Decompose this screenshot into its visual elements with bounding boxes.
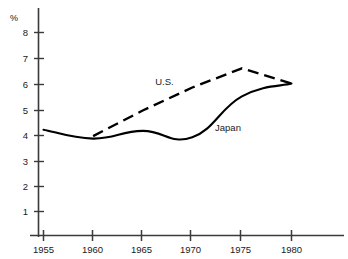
series-label-japan: Japan [215,122,241,133]
line-chart-figure: % 8 7 6 5 4 3 2 1 1955 1960 1965 1970 19… [0,0,348,259]
y-tick-label-3: 3 [23,156,28,167]
x-tick-label-1960: 1960 [82,244,103,255]
x-tick-labels: 1955 1960 1965 1970 1975 1980 [33,244,302,255]
y-tick-label-5: 5 [23,105,28,116]
series-line-japan [44,84,292,140]
x-tick-label-1980: 1980 [281,244,302,255]
y-tick-label-2: 2 [23,181,28,192]
series-line-us [93,68,291,136]
chart-canvas: % 8 7 6 5 4 3 2 1 1955 1960 1965 1970 19… [0,0,348,259]
y-tick-label-7: 7 [23,53,28,64]
y-tick-label-6: 6 [23,79,28,90]
x-tick-label-1955: 1955 [33,244,54,255]
y-axis-unit-label: % [10,13,18,23]
x-tick-label-1970: 1970 [180,244,201,255]
y-tick-label-1: 1 [23,206,28,217]
x-tick-label-1965: 1965 [131,244,152,255]
axis-group [30,8,344,237]
y-tick-label-4: 4 [23,130,28,141]
y-tick-labels: 8 7 6 5 4 3 2 1 [23,27,28,217]
y-tick-label-8: 8 [23,27,28,38]
x-tick-label-1975: 1975 [230,244,251,255]
series-label-us: U.S. [155,76,173,87]
